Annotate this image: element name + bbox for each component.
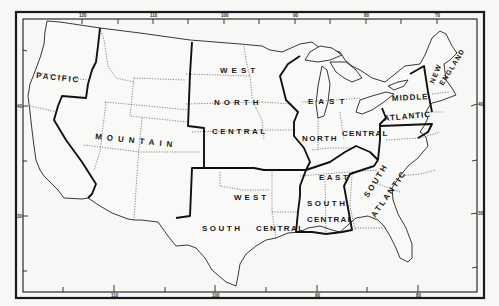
label-wsc-central: CENTRAL <box>256 224 305 233</box>
tick-label-70: 70 <box>435 13 441 18</box>
tick-label-100: 100 <box>221 13 229 18</box>
lat-label-right-40: 40 <box>478 102 484 107</box>
lat-label-left-30: 30 <box>17 214 23 219</box>
us-coastline <box>28 21 457 286</box>
tick-label-bottom-90: 90 <box>315 293 321 298</box>
census-divisions-map: 120 110 100 90 80 70 110 100 90 80 40 30… <box>0 0 499 306</box>
tick-label-80: 80 <box>364 13 370 18</box>
tick-label-120: 120 <box>79 13 87 18</box>
label-wsc-west: WEST <box>234 193 269 202</box>
label-ma-middle: MIDDLE <box>392 92 429 103</box>
label-wnc-central: CENTRAL <box>212 127 268 136</box>
label-esc-east: EAST <box>319 173 350 182</box>
label-enc-north: NORTH <box>302 134 338 143</box>
tick-label-bottom-100: 100 <box>212 293 220 298</box>
tick-label-bottom-80: 80 <box>416 293 422 298</box>
label-enc-east: EAST <box>308 97 349 106</box>
label-esc-south: SOUTH <box>307 199 348 208</box>
lat-label-right-30: 30 <box>478 211 484 216</box>
lat-label-left-40: 40 <box>17 104 23 109</box>
label-wnc-west: WEST <box>220 66 259 75</box>
label-esc-central: CENTRAL <box>307 215 354 224</box>
label-enc-central: CENTRAL <box>342 129 389 138</box>
label-wnc-north: NORTH <box>214 98 262 107</box>
tick-label-110: 110 <box>150 13 158 18</box>
tick-label-bottom-110: 110 <box>111 293 119 298</box>
tick-label-90: 90 <box>293 13 299 18</box>
label-wsc-south: SOUTH <box>202 224 243 233</box>
